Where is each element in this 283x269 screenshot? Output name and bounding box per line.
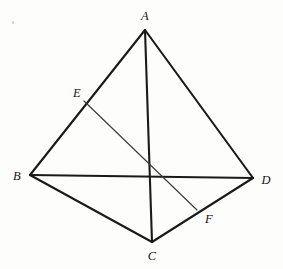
paper-speck: [12, 21, 14, 24]
edge-ad: [145, 30, 253, 178]
vertex-label-c: C: [148, 250, 157, 263]
vertex-label-b: B: [13, 170, 21, 183]
edge-bd: [30, 175, 253, 178]
vertex-label-d: D: [261, 174, 270, 187]
vertex-label-f: F: [205, 213, 213, 226]
geometry-figure: A B C D E F: [0, 0, 283, 269]
tetrahedron-svg: [0, 0, 283, 269]
edge-ac: [145, 30, 152, 242]
edge-ab: [30, 30, 145, 175]
edge-bc: [30, 175, 152, 242]
vertex-label-e: E: [73, 87, 81, 100]
edge-ef: [84, 101, 197, 210]
edge-cd: [152, 178, 253, 242]
vertex-label-a: A: [141, 10, 149, 23]
